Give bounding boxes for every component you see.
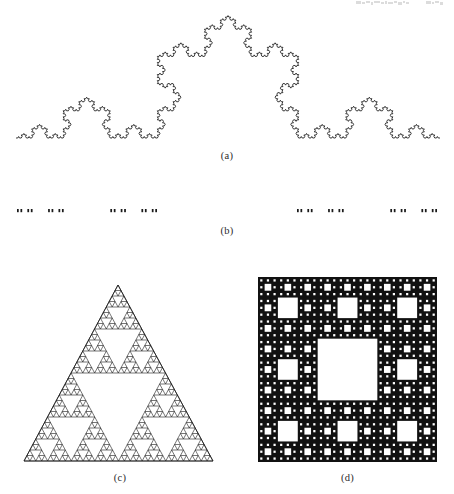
carpet-hole [320,307,322,309]
carpet-hole [413,396,415,398]
sierpinski-cell [142,456,148,462]
carpet-hole [426,293,428,295]
sierpinski-cell [157,450,163,456]
sierpinski-cell [181,450,187,456]
carpet-hole [273,451,275,453]
carpet-hole [353,293,355,295]
carpet-hole [304,428,311,435]
sierpinski-cell [89,434,95,440]
carpet-hole [384,366,391,373]
carpet-hole [267,293,269,295]
cantor-bar [62,209,64,212]
carpet-hole [380,437,382,439]
sierpinski-cell [62,406,68,412]
sierpinski-cell [83,368,89,374]
carpet-hole [380,451,382,453]
carpet-hole [313,314,315,316]
sierpinski-cell [106,313,112,319]
carpet-hole [386,334,388,336]
cantor-set-bars [17,209,437,212]
panel-sierpinski-carpet [258,277,437,462]
carpet-hole [313,437,315,439]
sierpinski-cell [89,412,95,418]
carpet-hole [419,437,421,439]
carpet-hole [287,320,289,322]
carpet-hole [419,341,421,343]
carpet-hole [313,389,315,391]
sierpinski-cell [148,445,154,451]
carpet-hole [366,314,368,316]
carpet-hole [273,327,275,329]
carpet-hole [426,362,428,364]
carpet-hole [267,423,269,425]
carpet-hole [386,437,388,439]
sierpinski-cell [148,456,154,462]
sierpinski-cell [172,401,178,407]
sierpinski-cell [148,368,154,374]
sierpinski-cell [136,456,142,462]
carpet-hole [280,320,282,322]
carpet-hole [273,355,275,357]
carpet-hole [433,382,435,384]
carpet-hole [386,300,388,302]
carpet-hole [340,334,342,336]
sierpinski-cell [160,456,166,462]
carpet-hole [419,334,421,336]
carpet-hole [300,457,302,459]
sierpinski-cell [74,406,80,412]
carpet-hole [307,334,309,336]
carpet-hole [333,430,335,432]
carpet-hole [399,279,401,281]
sierpinski-cell [59,445,65,451]
carpet-hole [360,293,362,295]
sierpinski-cell [95,456,101,462]
carpet-hole [300,300,302,302]
carpet-hole [373,409,375,411]
carpet-hole [404,325,411,332]
carpet-hole [366,293,368,295]
carpet-hole [280,403,282,405]
carpet-hole [333,457,335,459]
sierpinski-cell [110,450,116,456]
carpet-hole [340,286,342,288]
carpet-hole [300,355,302,357]
carpet-hole [433,396,435,398]
sierpinski-cell [100,324,106,330]
carpet-hole [393,327,395,329]
carpet-hole [287,403,289,405]
sierpinski-cell [109,318,115,324]
sierpinski-cell [157,384,163,390]
carpet-hole [406,457,408,459]
sierpinski-cell [83,401,89,407]
carpet-hole [293,334,295,336]
sierpinski-cell [65,412,71,418]
carpet-hole [366,334,368,336]
carpet-hole [373,403,375,405]
cantor-bar [390,209,392,212]
carpet-hole [386,362,388,364]
carpet-hole [380,457,382,459]
sierpinski-cell [136,434,142,440]
carpet-hole [307,300,309,302]
carpet-hole [320,416,322,418]
carpet-hole [399,286,401,288]
sierpinski-cell [112,324,118,330]
carpet-hole [300,437,302,439]
carpet-hole [260,444,262,446]
carpet-hole [313,451,315,453]
carpet-hole [380,368,382,370]
carpet-hole [320,279,322,281]
carpet-holes [260,279,435,459]
carpet-hole [280,341,282,343]
carpet-hole [399,320,401,322]
carpet-hole [260,382,262,384]
sierpinski-cell [107,456,113,462]
carpet-hole [307,375,309,377]
carpet-hole [313,416,315,418]
sierpinski-cell [101,445,107,451]
sierpinski-cell [42,434,48,440]
carpet-hole [265,387,272,394]
carpet-hole [360,300,362,302]
sierpinski-cell [154,456,160,462]
cantor-bar [421,209,423,212]
